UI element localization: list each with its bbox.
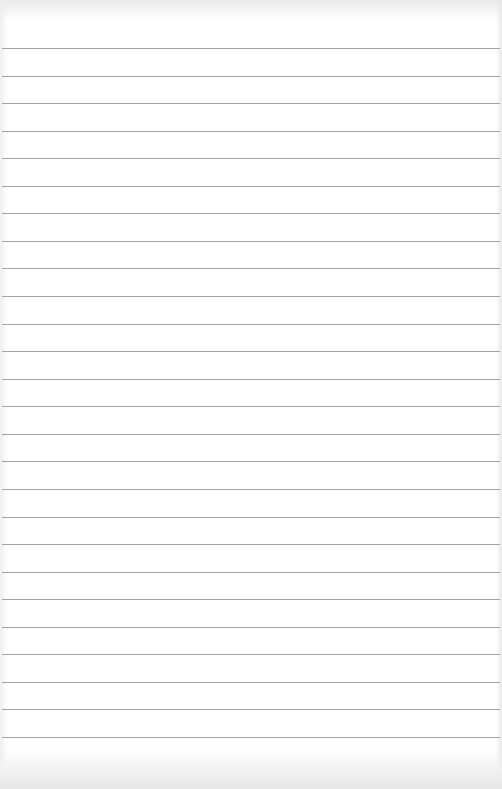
- ruled-line: [2, 572, 500, 573]
- ruled-line: [2, 48, 500, 49]
- ruled-line: [2, 682, 500, 683]
- ruled-line: [2, 213, 500, 214]
- ruled-line: [2, 709, 500, 710]
- ruled-line: [2, 379, 500, 380]
- ruled-line: [2, 544, 500, 545]
- ruled-line: [2, 406, 500, 407]
- ruled-line: [2, 654, 500, 655]
- ruled-line: [2, 296, 500, 297]
- ruled-line: [2, 461, 500, 462]
- ruled-line: [2, 351, 500, 352]
- ruled-line: [2, 158, 500, 159]
- ruled-line: [2, 324, 500, 325]
- ruled-line: [2, 103, 500, 104]
- ruled-line: [2, 268, 500, 269]
- scan-edge-right: [496, 0, 502, 789]
- ruled-line: [2, 186, 500, 187]
- ruled-line: [2, 489, 500, 490]
- scan-edge-top: [0, 0, 502, 20]
- ruled-line: [2, 599, 500, 600]
- ruled-line: [2, 627, 500, 628]
- scan-edge-left: [0, 0, 8, 789]
- lined-paper-sheet: [0, 0, 502, 789]
- ruled-line: [2, 517, 500, 518]
- scan-edge-bottom: [0, 749, 502, 789]
- ruled-line: [2, 434, 500, 435]
- ruled-line: [2, 241, 500, 242]
- ruled-line: [2, 737, 500, 738]
- ruled-line: [2, 76, 500, 77]
- ruled-line: [2, 131, 500, 132]
